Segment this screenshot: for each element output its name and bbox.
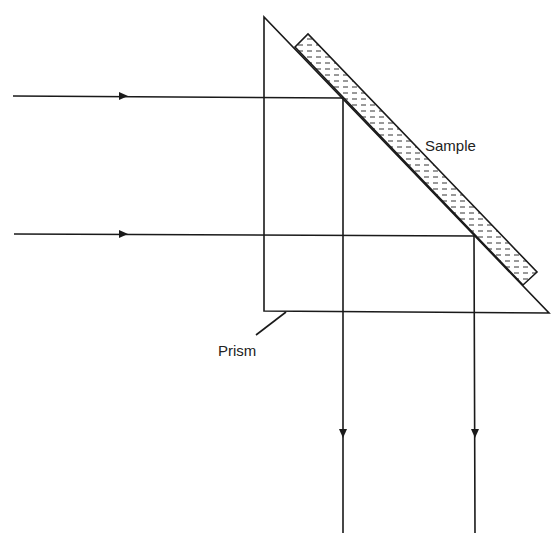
beam-2: [14, 230, 479, 533]
sample-label: Sample: [425, 137, 476, 154]
beam-1: [13, 92, 347, 533]
atr-prism-diagram: Sample Prism: [0, 0, 559, 544]
sample-strip: [295, 34, 537, 285]
prism-leader-line: [256, 312, 286, 335]
arrow-right-icon: [119, 230, 128, 238]
prism-label: Prism: [218, 342, 256, 359]
arrow-right-icon: [119, 92, 128, 100]
arrow-down-icon: [339, 429, 347, 438]
arrow-down-icon: [471, 429, 479, 438]
